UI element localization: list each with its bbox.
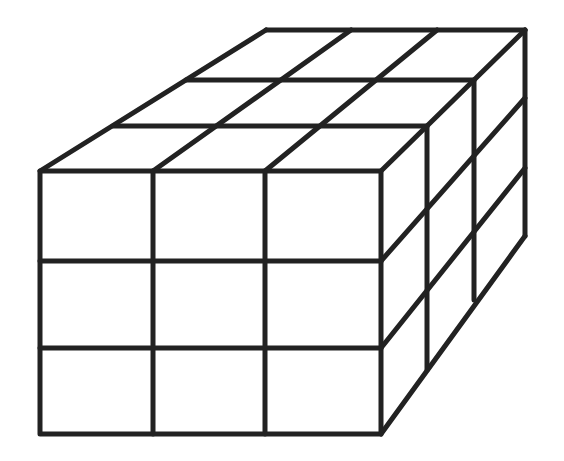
cube-diagram xyxy=(0,0,564,461)
right-face xyxy=(381,30,525,434)
front-face xyxy=(40,171,381,434)
cube-grid-drawing xyxy=(0,0,564,461)
top-face xyxy=(40,30,525,171)
